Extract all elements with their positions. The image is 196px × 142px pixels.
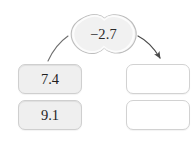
value-bubble[interactable]: −2.7 — [66, 12, 140, 56]
value-bubble-label: −2.7 — [66, 12, 140, 56]
diagram-canvas: −2.7 7.4 9.1 — [0, 0, 196, 142]
source-tile-0[interactable]: 7.4 — [18, 64, 82, 94]
target-tile-0[interactable] — [126, 64, 190, 94]
connector-left-path — [48, 36, 68, 61]
connector-right-path — [138, 36, 160, 58]
source-tile-1-label: 9.1 — [41, 107, 59, 124]
target-tile-1[interactable] — [126, 100, 190, 130]
source-tile-0-label: 7.4 — [41, 71, 59, 88]
source-tile-1[interactable]: 9.1 — [18, 100, 82, 130]
